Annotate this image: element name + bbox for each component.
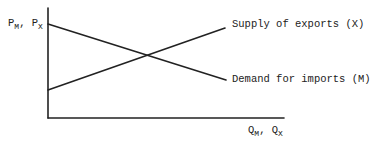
y-axis-label: PM, PX [8,18,43,29]
demand-curve-label: Demand for imports (M) [232,74,371,85]
x-axis-label: QM, QX [248,125,283,136]
demand-curve [48,24,226,80]
supply-curve-label: Supply of exports (X) [232,19,364,30]
supply-curve [48,28,225,90]
